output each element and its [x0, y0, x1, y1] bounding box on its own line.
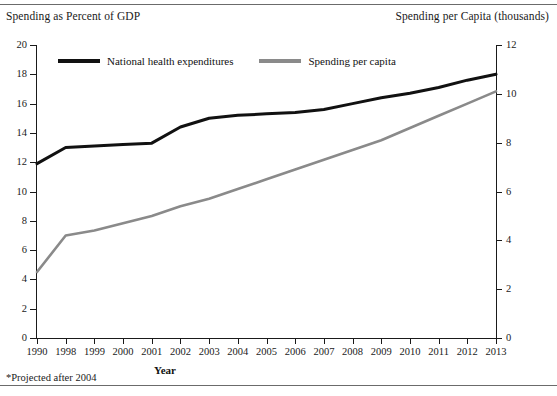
left-tick-mark [30, 74, 36, 75]
legend-label-national-health-expenditures: National health expenditures [107, 55, 233, 67]
x-tick-mark [238, 338, 239, 344]
plot-area [37, 45, 496, 338]
right-tick-mark [496, 143, 502, 144]
right-tick-label: 12 [506, 40, 530, 51]
right-tick-mark [496, 94, 502, 95]
left-tick-mark [30, 279, 36, 280]
series-line-spending-per-capita [37, 91, 496, 272]
x-tick-mark [123, 338, 124, 344]
top-divider [0, 4, 557, 5]
x-tick-mark [467, 338, 468, 344]
left-tick-label: 2 [6, 304, 27, 315]
legend-swatch-spending-per-capita [259, 59, 301, 62]
right-tick-label: 8 [506, 138, 530, 149]
right-tick-mark [496, 289, 502, 290]
right-tick-mark [496, 240, 502, 241]
x-tick-mark [37, 338, 38, 344]
right-tick-label: 10 [506, 89, 530, 100]
left-tick-mark [30, 250, 36, 251]
x-tick-mark [439, 338, 440, 344]
right-axis-title: Spending per Capita (thousands) [395, 10, 549, 22]
left-tick-label: 14 [6, 128, 27, 139]
series-lines [37, 45, 496, 338]
chart-footnote: *Projected after 2004 [6, 372, 96, 383]
left-axis-title: Spending as Percent of GDP [6, 10, 140, 22]
left-tick-mark [30, 221, 36, 222]
left-tick-mark [30, 104, 36, 105]
x-tick-mark [152, 338, 153, 344]
x-tick-mark [353, 338, 354, 344]
x-tick-mark [180, 338, 181, 344]
legend-item-spending-per-capita: Spending per capita [259, 55, 395, 67]
x-tick-mark [267, 338, 268, 344]
right-tick-label: 6 [506, 187, 530, 198]
left-tick-label: 0 [6, 333, 27, 344]
legend-label-spending-per-capita: Spending per capita [308, 55, 395, 67]
chart-legend: National health expenditures Spending pe… [58, 55, 396, 67]
right-tick-label: 0 [506, 333, 530, 344]
right-tick-mark [496, 45, 502, 46]
left-tick-label: 8 [6, 216, 27, 227]
left-tick-label: 6 [6, 245, 27, 256]
left-tick-mark [30, 133, 36, 134]
x-tick-mark [324, 338, 325, 344]
legend-item-national-health-expenditures: National health expenditures [58, 55, 233, 67]
x-tick-mark [209, 338, 210, 344]
x-tick-mark [66, 338, 67, 344]
left-tick-mark [30, 45, 36, 46]
left-tick-label: 16 [6, 99, 27, 110]
x-tick-mark [381, 338, 382, 344]
right-tick-label: 4 [506, 235, 530, 246]
legend-swatch-national-health-expenditures [58, 59, 100, 63]
x-tick-label: 2013 [476, 346, 516, 357]
bottom-divider [0, 385, 557, 386]
x-tick-mark [94, 338, 95, 344]
left-tick-mark [30, 338, 36, 339]
left-tick-mark [30, 162, 36, 163]
left-tick-label: 12 [6, 157, 27, 168]
left-tick-label: 20 [6, 40, 27, 51]
series-line-national-health-expenditures [37, 74, 496, 163]
left-tick-label: 10 [6, 187, 27, 198]
x-tick-mark [410, 338, 411, 344]
left-tick-mark [30, 192, 36, 193]
right-tick-mark [496, 192, 502, 193]
x-tick-mark [295, 338, 296, 344]
right-tick-label: 2 [506, 284, 530, 295]
left-tick-label: 4 [6, 274, 27, 285]
x-tick-mark [496, 338, 497, 344]
left-tick-label: 18 [6, 69, 27, 80]
left-tick-mark [30, 309, 36, 310]
